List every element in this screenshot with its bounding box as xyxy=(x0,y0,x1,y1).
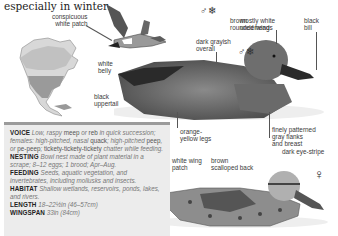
label-dark-grayish-overall: dark grayish overall xyxy=(196,38,231,52)
label-brown-rounded-head: brown rounded head xyxy=(230,17,269,31)
label-dark-eye-stripe: dark eye-stripe xyxy=(282,148,324,155)
intro-text: especially in winter. xyxy=(4,0,110,12)
label-white-belly: white belly xyxy=(98,60,113,74)
wingspan-entry: WINGSPAN 33in (84cm) xyxy=(10,209,165,217)
male-winter-symbol: ♂❄ xyxy=(238,46,254,57)
nesting-entry: NESTING Bowl nest made of plant material… xyxy=(10,153,165,169)
range-map xyxy=(14,36,88,118)
female-symbol: ♀ xyxy=(314,166,325,182)
label-brown-scalloped-back: brown scalloped back xyxy=(211,157,253,171)
habitat-entry: HABITAT Shallow wetlands, reservoirs, po… xyxy=(10,185,165,201)
voice-entry: VOICE Low, raspy meep or reb in quick su… xyxy=(10,129,165,153)
male-winter-symbol: ♂❄ xyxy=(200,5,216,16)
label-orange-yellow-legs: orange- yellow legs xyxy=(180,128,211,142)
feeding-entry: FEEDING Seeds, aquatic vegetation, and i… xyxy=(10,169,165,185)
male-duck-illustration xyxy=(114,40,338,132)
label-finely-patterned-gray-flanks: finely patterned gray flanks and breast xyxy=(272,126,316,148)
label-black-bill: black bill xyxy=(304,17,319,31)
label-white-wing-patch: white wing patch xyxy=(172,157,202,171)
species-info-box: VOICE Low, raspy meep or reb in quick su… xyxy=(4,122,170,236)
label-black-uppertail: black uppertail xyxy=(94,93,119,107)
label-conspicuous-white-patch: conspicuous white patch xyxy=(52,13,88,27)
length-entry: LENGTH 18–22½in (46–57cm) xyxy=(10,201,165,209)
